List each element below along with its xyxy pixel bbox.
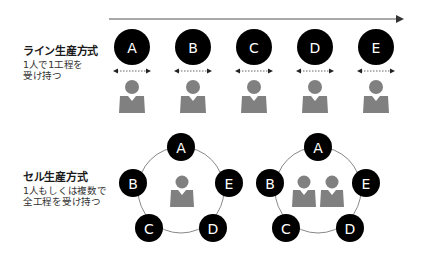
process-node-e: E xyxy=(352,169,380,197)
cell-single-worker: ABCDE xyxy=(119,133,243,242)
worker-icon xyxy=(180,80,206,113)
process-node-c: C xyxy=(135,214,163,242)
node-label: A xyxy=(313,140,323,156)
process-node-d: D xyxy=(297,29,333,65)
station-e: E xyxy=(357,29,395,113)
process-node-b: B xyxy=(175,29,211,65)
process-node-a: A xyxy=(304,133,332,161)
cell-multi-worker: ABCDE xyxy=(256,133,380,242)
process-node-e: E xyxy=(358,29,394,65)
node-label: D xyxy=(310,40,321,56)
process-node-c: C xyxy=(236,29,272,65)
node-label: A xyxy=(176,140,186,156)
process-node-b: B xyxy=(256,169,284,197)
range-arrow-icon xyxy=(296,69,334,74)
node-label: B xyxy=(188,40,198,56)
process-node-a: A xyxy=(167,133,195,161)
node-label: E xyxy=(362,176,371,192)
worker-icon xyxy=(320,176,344,208)
worker-icon xyxy=(241,80,267,113)
process-node-c: C xyxy=(272,214,300,242)
node-label: D xyxy=(345,221,356,237)
worker-icon xyxy=(363,80,389,113)
node-label: E xyxy=(372,40,381,56)
station-d: D xyxy=(296,29,334,113)
station-c: C xyxy=(235,29,273,113)
node-label: B xyxy=(265,176,275,192)
station-b: B xyxy=(174,29,212,113)
node-label: E xyxy=(225,176,234,192)
process-node-d: D xyxy=(336,214,364,242)
station-a: A xyxy=(113,29,151,113)
node-label: C xyxy=(249,40,259,56)
process-node-d: D xyxy=(199,214,227,242)
worker-icon xyxy=(170,176,194,208)
node-label: B xyxy=(128,176,138,192)
node-label: C xyxy=(144,221,154,237)
worker-icon xyxy=(119,80,145,113)
node-label: C xyxy=(281,221,291,237)
process-node-e: E xyxy=(215,169,243,197)
process-node-a: A xyxy=(114,29,150,65)
node-label: A xyxy=(127,40,137,56)
production-diagram: ABCDE ABCDE ABCDE xyxy=(0,0,422,255)
range-arrow-icon xyxy=(357,69,395,74)
worker-icon xyxy=(292,176,316,208)
range-arrow-icon xyxy=(113,69,151,74)
flow-arrow xyxy=(109,15,404,23)
line-stations: ABCDE xyxy=(113,29,395,113)
range-arrow-icon xyxy=(235,69,273,74)
worker-icon xyxy=(302,80,328,113)
process-node-b: B xyxy=(119,169,147,197)
node-label: D xyxy=(208,221,219,237)
range-arrow-icon xyxy=(174,69,212,74)
